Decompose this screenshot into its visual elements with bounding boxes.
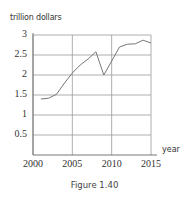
x-tick-label: 2010 <box>97 158 127 169</box>
y-tick-label: 1.5 <box>3 88 27 99</box>
y-tick-label: 0.5 <box>3 128 27 139</box>
y-tick-label: 2 <box>3 68 27 79</box>
x-axis-label: year <box>162 145 180 154</box>
figure-caption: Figure 1.40 <box>0 180 189 190</box>
y-tick-label: 1 <box>3 108 27 119</box>
y-tick-label: 3 <box>3 28 27 39</box>
data-line <box>41 40 151 99</box>
y-tick-label: 2.5 <box>3 48 27 59</box>
grid <box>33 33 157 155</box>
x-tick-label: 2005 <box>57 158 87 169</box>
x-tick-label: 2015 <box>136 158 166 169</box>
x-tick-label: 2000 <box>18 158 48 169</box>
line-chart <box>0 0 189 203</box>
